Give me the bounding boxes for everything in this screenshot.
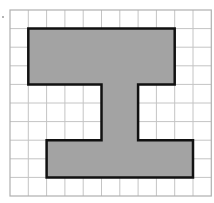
grid-figure: [0, 0, 214, 203]
corner-dot: [2, 16, 4, 18]
